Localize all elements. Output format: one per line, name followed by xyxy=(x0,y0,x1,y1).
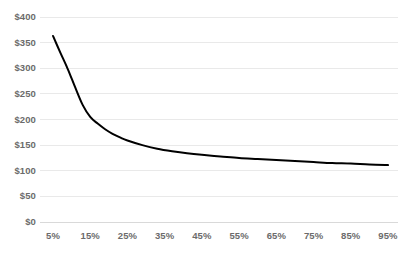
y-axis-tick-label: $200 xyxy=(14,115,36,125)
series-line-0 xyxy=(53,36,388,165)
x-axis-tick-label: 95% xyxy=(368,231,408,241)
y-axis-tick-label: $150 xyxy=(14,140,36,150)
y-axis-tick-label: $250 xyxy=(14,89,36,99)
chart-plot-area xyxy=(0,0,410,262)
x-axis-tick-label: 15% xyxy=(70,231,110,241)
x-axis-tick-label: 55% xyxy=(219,231,259,241)
series-lines xyxy=(53,36,388,165)
x-axis-tick-label: 45% xyxy=(182,231,222,241)
x-axis-tick-label: 25% xyxy=(107,231,147,241)
y-axis-tick-label: $400 xyxy=(14,12,36,22)
x-axis-tick-label: 5% xyxy=(33,231,73,241)
y-axis-tick-label: $0 xyxy=(25,217,36,227)
x-axis-tick-label: 35% xyxy=(145,231,185,241)
y-axis-tick-label: $300 xyxy=(14,63,36,73)
x-axis-tick-label: 65% xyxy=(256,231,296,241)
y-axis-tick-label: $100 xyxy=(14,166,36,176)
x-axis-tick-label: 75% xyxy=(294,231,334,241)
y-axis-tick-label: $50 xyxy=(20,191,36,201)
x-axis-tick-label: 85% xyxy=(331,231,371,241)
y-axis-tick-label: $350 xyxy=(14,38,36,48)
chart-container: $0$50$100$150$200$250$300$350$400 5%15%2… xyxy=(0,0,410,262)
